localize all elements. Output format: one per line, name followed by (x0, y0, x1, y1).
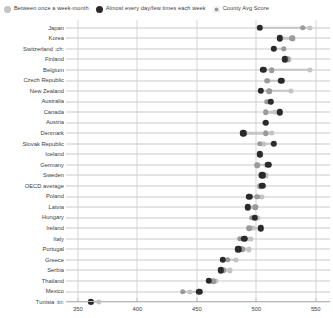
row-label-finland: Finland (0, 54, 64, 65)
data-point-between_week_month[interactable] (187, 289, 192, 294)
row-label-canada: Canada (0, 107, 64, 118)
data-point-between_week_month[interactable] (248, 236, 253, 241)
data-point-country_avg[interactable] (252, 204, 258, 210)
data-point-between_week_month[interactable] (247, 247, 252, 252)
data-point-almost_every_day[interactable] (263, 120, 269, 126)
data-point-country_avg[interactable] (289, 36, 295, 42)
legend-item-country_avg[interactable]: County Avg Score (213, 6, 269, 13)
data-point-country_avg[interactable] (255, 162, 261, 168)
chart-row: Korea (0, 33, 333, 44)
row-track (66, 128, 330, 139)
gridline (66, 249, 330, 250)
row-label-latvia: Latvia (0, 202, 64, 213)
row-label-italy: Italy (0, 234, 64, 245)
legend-item-almost_every_day[interactable]: Almost every day/few times each week (96, 6, 206, 13)
connector-line (261, 90, 291, 92)
x-tick-label: 400 (133, 306, 143, 312)
x-tick (137, 298, 138, 302)
data-point-between_week_month[interactable] (288, 88, 293, 93)
row-track (66, 234, 330, 245)
data-point-country_avg[interactable] (180, 289, 186, 295)
data-point-country_avg[interactable] (255, 194, 261, 200)
row-label-switzerland-ch: Switzerland :ch: (0, 44, 64, 55)
row-label-hungary: Hungary (0, 212, 64, 223)
chart-row: Japan (0, 23, 333, 34)
data-point-between_week_month[interactable] (269, 131, 274, 136)
chart-row: Poland (0, 191, 333, 202)
data-point-country_avg[interactable] (257, 141, 263, 147)
data-point-country_avg[interactable] (246, 225, 252, 231)
row-label-tunisia-tn: Tunisia :tn: (0, 297, 64, 308)
data-point-almost_every_day[interactable] (241, 236, 247, 242)
data-point-country_avg[interactable] (263, 109, 269, 115)
row-track (66, 244, 330, 255)
row-label-germany: Germany (0, 160, 64, 171)
legend-item-between_week_month[interactable]: Between once a week-month (4, 6, 89, 13)
row-track (66, 107, 330, 118)
data-point-between_week_month[interactable] (307, 25, 312, 30)
gridline (66, 207, 330, 208)
data-point-almost_every_day[interactable] (265, 162, 271, 168)
legend-swatch-between_week_month-icon (4, 6, 11, 13)
chart-row: Australia (0, 96, 333, 107)
data-point-country_avg[interactable] (267, 88, 273, 94)
gridline (66, 259, 330, 260)
gridline (66, 196, 330, 197)
x-tick (196, 298, 197, 302)
data-point-country_avg[interactable] (269, 67, 275, 73)
data-point-almost_every_day[interactable] (277, 35, 283, 41)
chart-row: Finland (0, 54, 333, 65)
chart-row: Portugal (0, 244, 333, 255)
row-track (66, 33, 330, 44)
gridline (66, 143, 330, 144)
row-track (66, 160, 330, 171)
gridline (66, 48, 330, 49)
chart-row: Canada (0, 107, 333, 118)
data-point-almost_every_day[interactable] (271, 141, 277, 147)
data-point-almost_every_day[interactable] (277, 109, 283, 115)
data-point-between_week_month[interactable] (228, 268, 233, 273)
row-track (66, 75, 330, 86)
x-tick-label: 350 (73, 306, 83, 312)
data-point-almost_every_day[interactable] (196, 288, 202, 294)
data-point-almost_every_day[interactable] (267, 98, 273, 104)
row-label-oecd-average: OECD average (0, 181, 64, 192)
data-point-almost_every_day[interactable] (278, 77, 284, 83)
data-point-between_week_month[interactable] (307, 67, 312, 72)
data-point-between_week_month[interactable] (233, 257, 238, 262)
gridline (66, 154, 330, 155)
row-track (66, 149, 330, 160)
row-label-japan: Japan (0, 23, 64, 34)
data-point-almost_every_day[interactable] (240, 130, 246, 136)
x-tick-label: 450 (192, 306, 202, 312)
chart-row: Denmark (0, 128, 333, 139)
gridline (66, 280, 330, 281)
legend-label: Between once a week-month (14, 6, 89, 12)
chart-row: Italy (0, 234, 333, 245)
gridline (66, 101, 330, 102)
chart-row: Austria (0, 117, 333, 128)
chart-legend: Between once a week-monthAlmost every da… (4, 3, 331, 15)
data-point-almost_every_day[interactable] (245, 204, 251, 210)
gridline (66, 238, 330, 239)
data-point-almost_every_day[interactable] (258, 88, 264, 94)
data-point-country_avg[interactable] (264, 78, 270, 84)
row-label-czech-republic: Czech Republic (0, 75, 64, 86)
row-label-new-zealand: New Zealand (0, 86, 64, 97)
chart-row: Sweden (0, 170, 333, 181)
data-point-almost_every_day[interactable] (271, 46, 277, 52)
data-point-country_avg[interactable] (263, 130, 269, 136)
data-point-country_avg[interactable] (281, 46, 287, 52)
row-track (66, 265, 330, 276)
data-point-between_week_month[interactable] (260, 194, 265, 199)
chart-row: Tunisia :tn: (0, 297, 333, 308)
data-point-almost_every_day[interactable] (258, 225, 264, 231)
data-point-almost_every_day[interactable] (257, 25, 263, 31)
data-point-almost_every_day[interactable] (246, 193, 252, 199)
data-point-almost_every_day[interactable] (260, 67, 266, 73)
data-point-country_avg[interactable] (300, 25, 306, 31)
row-label-poland: Poland (0, 191, 64, 202)
row-label-belgium: Belgium (0, 65, 64, 76)
data-point-almost_every_day[interactable] (259, 183, 265, 189)
row-track (66, 96, 330, 107)
